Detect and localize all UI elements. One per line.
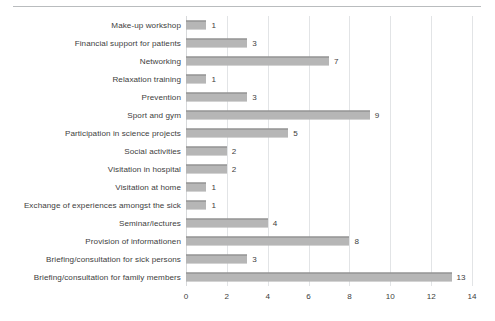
chart-row: Provision of informationen8 — [0, 232, 495, 250]
bar-fill — [186, 165, 227, 174]
x-axis-tick-label: 8 — [347, 292, 352, 301]
chart-row: Seminar/lectures4 — [0, 214, 495, 232]
category-label: Provision of informationen — [85, 237, 181, 246]
x-axis-tick-label: 10 — [386, 292, 395, 301]
category-label: Briefing/consultation for family members — [34, 273, 181, 282]
x-axis-tick-label: 14 — [467, 292, 476, 301]
category-label: Relaxation training — [112, 75, 181, 84]
bar: 13 — [186, 273, 452, 282]
bar: 4 — [186, 219, 268, 228]
bar: 2 — [186, 165, 227, 174]
x-axis-tick-label: 6 — [306, 292, 311, 301]
bar-fill — [186, 129, 288, 138]
bar-fill — [186, 255, 247, 264]
bar-value-label: 4 — [268, 219, 278, 228]
chart-row: Briefing/consultation for family members… — [0, 268, 495, 286]
bar: 9 — [186, 111, 370, 120]
x-axis-tick-label: 12 — [427, 292, 436, 301]
bar-fill — [186, 93, 247, 102]
bar-value-label: 9 — [370, 111, 380, 120]
bar-fill — [186, 147, 227, 156]
bar: 2 — [186, 147, 227, 156]
bar-value-label: 1 — [206, 75, 216, 84]
bar-fill — [186, 237, 349, 246]
bar-value-label: 2 — [227, 147, 237, 156]
bar: 3 — [186, 39, 247, 48]
bar-fill — [186, 21, 206, 30]
category-label: Prevention — [141, 93, 181, 102]
chart-row: Briefing/consultation for sick persons3 — [0, 250, 495, 268]
bar-fill — [186, 57, 329, 66]
bar: 7 — [186, 57, 329, 66]
top-divider-rule — [13, 6, 481, 7]
bar: 1 — [186, 75, 206, 84]
bar-value-label: 3 — [247, 93, 257, 102]
bar-value-label: 13 — [452, 273, 466, 282]
chart-row: Exchange of experiences amongst the sick… — [0, 196, 495, 214]
bar-value-label: 3 — [247, 255, 257, 264]
chart-row: Visitation in hospital2 — [0, 160, 495, 178]
chart-row: Participation in science projects5 — [0, 124, 495, 142]
category-label: Visitation at home — [115, 183, 181, 192]
bar: 3 — [186, 93, 247, 102]
bar: 1 — [186, 201, 206, 210]
bar-value-label: 7 — [329, 57, 339, 66]
category-label: Make-up workshop — [111, 21, 181, 30]
bar-fill — [186, 183, 206, 192]
category-label: Visitation in hospital — [108, 165, 181, 174]
bar-value-label: 1 — [206, 183, 216, 192]
category-label: Sport and gym — [127, 111, 181, 120]
bar-value-label: 1 — [206, 201, 216, 210]
chart-row: Visitation at home1 — [0, 178, 495, 196]
category-label: Seminar/lectures — [119, 219, 181, 228]
bar: 5 — [186, 129, 288, 138]
bar-value-label: 8 — [349, 237, 359, 246]
bar: 8 — [186, 237, 349, 246]
bar-value-label: 1 — [206, 21, 216, 30]
category-label: Social activities — [124, 147, 181, 156]
x-axis-tick-label: 0 — [184, 292, 189, 301]
chart-row: Social activities2 — [0, 142, 495, 160]
bar: 3 — [186, 255, 247, 264]
x-axis: 02468101214 — [186, 288, 472, 312]
x-axis-tick-label: 4 — [265, 292, 270, 301]
bar-value-label: 2 — [227, 165, 237, 174]
category-label: Participation in science projects — [65, 129, 181, 138]
bar-fill — [186, 273, 452, 282]
bar-fill — [186, 39, 247, 48]
chart-row: Relaxation training1 — [0, 70, 495, 88]
bar-fill — [186, 75, 206, 84]
bar: 1 — [186, 21, 206, 30]
chart-screenshot: 02468101214 Make-up workshop1Financial s… — [0, 0, 495, 321]
bar-fill — [186, 111, 370, 120]
category-label: Briefing/consultation for sick persons — [46, 255, 181, 264]
bar-fill — [186, 201, 206, 210]
bar-value-label: 3 — [247, 39, 257, 48]
category-label: Networking — [140, 57, 181, 66]
bar-fill — [186, 219, 268, 228]
bar-chart: 02468101214 Make-up workshop1Financial s… — [0, 16, 495, 316]
chart-row: Prevention3 — [0, 88, 495, 106]
bar-value-label: 5 — [288, 129, 298, 138]
x-axis-tick-label: 2 — [225, 292, 230, 301]
bar: 1 — [186, 183, 206, 192]
chart-row: Financial support for patients3 — [0, 34, 495, 52]
chart-row: Make-up workshop1 — [0, 16, 495, 34]
category-label: Financial support for patients — [75, 39, 181, 48]
chart-row: Sport and gym9 — [0, 106, 495, 124]
category-label: Exchange of experiences amongst the sick — [24, 201, 181, 210]
chart-row: Networking7 — [0, 52, 495, 70]
